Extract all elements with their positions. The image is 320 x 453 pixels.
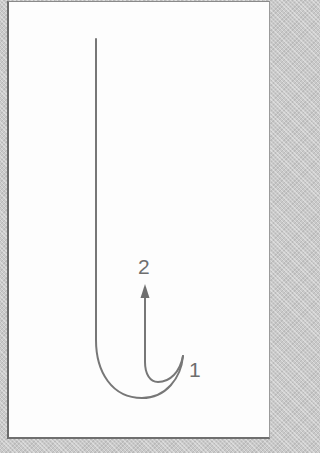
point-2-label: 2 — [138, 256, 150, 277]
point-1-label: 1 — [189, 359, 201, 380]
inner-loop-stroke — [145, 296, 183, 382]
hook-path-diagram — [0, 0, 275, 453]
arrow-up-icon — [141, 284, 150, 298]
hook-stroke — [96, 39, 183, 398]
